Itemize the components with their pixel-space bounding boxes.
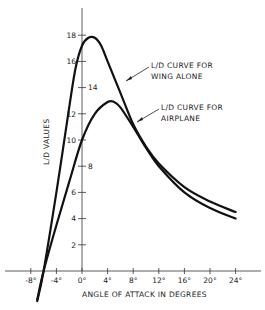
plane-annotation-line2: AIRPLANE (161, 114, 200, 123)
y-tick-label: 10 (66, 136, 76, 145)
wing-leader-arrow (126, 76, 132, 81)
x-tick-label: 8° (129, 276, 138, 285)
y-tick-label: 16 (66, 57, 76, 66)
y-tick-label: 2 (71, 241, 76, 250)
wing-annotation-line1: L/D CURVE FOR (151, 61, 213, 70)
x-tick-label: 12° (152, 276, 166, 285)
wing-alone-curve (37, 37, 235, 301)
y-tick-label: 18 (66, 31, 76, 40)
x-tick-label: 24° (229, 276, 243, 285)
plane-leader-arrow (137, 117, 143, 122)
wing-annotation-line2: WING ALONE (151, 72, 203, 81)
x-tick-label: -4° (51, 276, 62, 285)
x-tick-label: 20° (203, 276, 217, 285)
x-tick-label: 16° (178, 276, 192, 285)
ld-chart: -8°-4°0°4°8°12°16°20°24°24681012141618 L… (0, 0, 265, 310)
plane-annotation-line1: L/D CURVE FOR (161, 103, 223, 112)
curves (37, 37, 235, 301)
y-tick-label: 6 (71, 188, 76, 197)
x-tick-label: 0° (78, 276, 87, 285)
x-tick-label: 4° (103, 276, 112, 285)
y-tick-label: 14 (88, 83, 98, 92)
x-tick-label: -8° (25, 276, 36, 285)
x-axis-title: ANGLE OF ATTACK IN DEGREES (82, 290, 207, 299)
y-tick-label: 4 (71, 214, 76, 223)
y-axis-title: L/D VALUES (42, 119, 51, 165)
y-tick-label: 8 (88, 162, 93, 171)
